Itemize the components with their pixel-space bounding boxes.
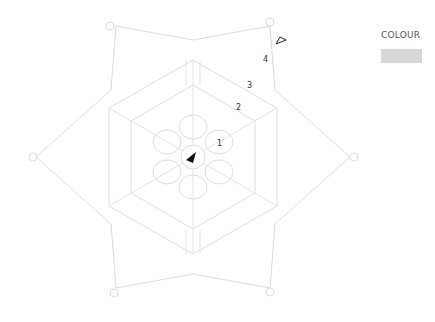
- start-marker-icon: [186, 152, 196, 163]
- legend-title: COLOUR: [381, 30, 420, 40]
- colour-swatch: [381, 49, 422, 63]
- row-label-1: 1: [217, 139, 222, 148]
- row-label-4: 4: [263, 55, 268, 64]
- row-label-2: 2: [236, 103, 241, 112]
- end-marker-icon: [276, 37, 286, 44]
- crochet-chart: 1 2 3 4: [0, 0, 435, 322]
- row-label-3: 3: [247, 81, 252, 90]
